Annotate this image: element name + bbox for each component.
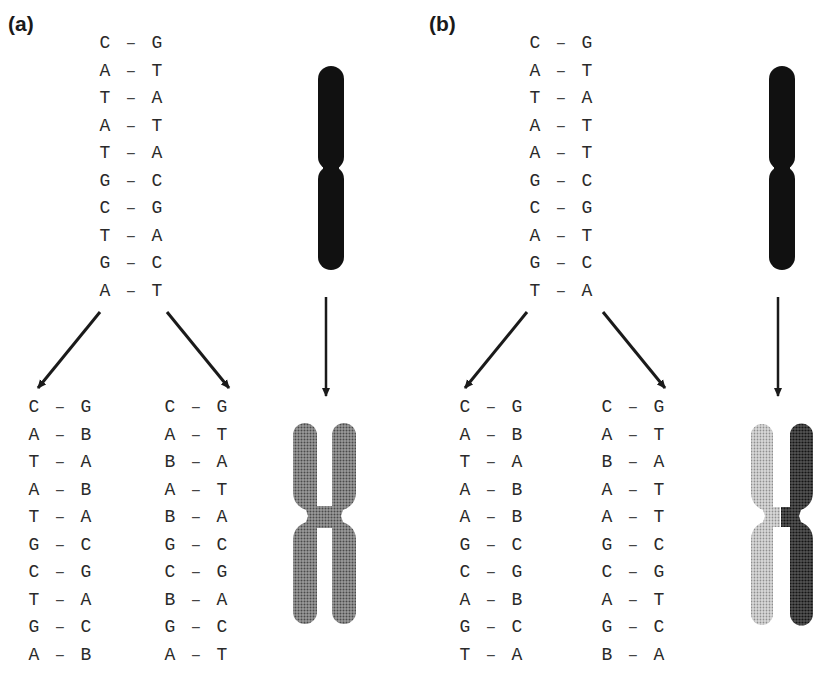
chromosome-a-after — [293, 423, 356, 624]
figure: (a) (b) C–GA–TT–AA–TT–AG–CC–GT–AG–CA–T C… — [0, 0, 838, 683]
chromosome-a-before — [318, 66, 344, 270]
diagram-graphics — [0, 0, 838, 683]
arrow-a-left — [38, 312, 100, 388]
arrow-b-left — [465, 312, 527, 388]
chromosome-b-before — [769, 66, 795, 270]
chromosome-b-after — [751, 424, 813, 626]
arrow-a-right — [167, 312, 229, 388]
arrow-b-right — [603, 312, 665, 388]
